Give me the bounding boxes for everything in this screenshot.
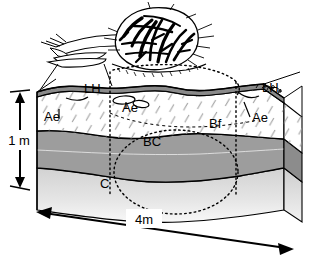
horizontal-scale-label: 4m [135, 212, 153, 227]
label-ae-left: Ae [44, 109, 60, 124]
soil-profile-figure: 1 m 4m LH LH Ae Ae [0, 0, 314, 259]
block-diagram-svg: 1 m 4m LH LH Ae Ae [0, 0, 314, 259]
vertical-scale-label: 1 m [8, 133, 30, 148]
label-lh-left: LH [84, 81, 101, 96]
label-bc: BC [143, 134, 161, 149]
label-bf: Bf [209, 116, 222, 131]
label-ae-right: Ae [252, 110, 268, 125]
label-c: C [100, 176, 109, 191]
label-ae-mid: Ae [122, 100, 138, 115]
label-lh-right: LH [262, 80, 279, 95]
